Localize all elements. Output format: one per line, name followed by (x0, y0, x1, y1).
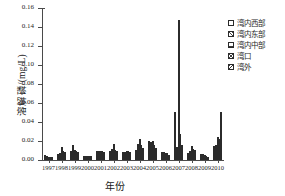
bar (142, 148, 144, 160)
legend-swatch-icon (228, 20, 234, 26)
legend-item-label: 湾内中部 (237, 39, 265, 50)
bar (194, 150, 196, 160)
legend-item-label: 湾内东部 (237, 28, 265, 39)
y-axis-tick-label: 0.00 (22, 155, 34, 163)
x-axis-tick (114, 160, 115, 163)
bar (168, 155, 170, 160)
x-axis-tick (205, 160, 206, 163)
x-axis-tick (166, 160, 167, 163)
x-axis-tick (153, 160, 154, 163)
y-axis-tick-label: 0.06 (22, 98, 34, 106)
bar (103, 152, 105, 160)
x-axis-tick-label: 2010 (203, 164, 233, 171)
bar (207, 157, 209, 160)
x-axis-line (42, 160, 224, 161)
bar (129, 152, 131, 160)
y-axis-tick-label: 0.02 (22, 136, 34, 144)
x-axis-tick (140, 160, 141, 163)
legend-item[interactable]: 湾内东部 (228, 28, 285, 39)
x-axis-title: 年份 (0, 178, 230, 193)
bar (155, 148, 157, 160)
legend-item[interactable]: 湾内中部 (228, 39, 285, 50)
bar (77, 152, 79, 160)
x-axis-tick (192, 160, 193, 163)
legend-item-label: 湾内西部 (237, 17, 265, 28)
chart-legend: 湾内西部湾内东部湾内中部湾口湾外 (228, 17, 285, 72)
y-axis-tick-label: 0.08 (22, 79, 34, 87)
bar (181, 145, 183, 160)
x-axis-tick (62, 160, 63, 163)
x-axis-tick (49, 160, 50, 163)
x-axis-tick (75, 160, 76, 163)
y-axis-tick-label: 0.10 (22, 60, 34, 68)
x-axis-tick (127, 160, 128, 163)
legend-swatch-icon (228, 64, 234, 70)
bar (90, 156, 92, 160)
y-axis-tick-label: 0.12 (22, 41, 34, 49)
y-axis-tick-label: 0.14 (22, 22, 34, 30)
legend-item[interactable]: 湾口 (228, 50, 285, 61)
legend-item[interactable]: 湾外 (228, 61, 285, 72)
x-axis-tick (88, 160, 89, 163)
bar (51, 157, 53, 160)
legend-item[interactable]: 湾内西部 (228, 17, 285, 28)
bar (64, 152, 66, 160)
dissolved-phosphorus-bar-chart: 溶解磷/(mg/L) 0.000.020.040.060.080.100.120… (0, 0, 285, 196)
bar-series-container (42, 8, 224, 160)
legend-swatch-icon (228, 53, 234, 59)
y-axis-tick-label: 0.16 (22, 3, 34, 11)
x-axis-tick (179, 160, 180, 163)
legend-item-label: 湾口 (237, 50, 251, 61)
x-axis-tick (218, 160, 219, 163)
y-axis-tick: 0.00 (38, 160, 42, 161)
plot-area: 0.000.020.040.060.080.100.120.140.16 199… (42, 8, 224, 160)
y-axis-tick-label: 0.04 (22, 117, 34, 125)
bar (220, 112, 222, 160)
legend-swatch-icon (228, 42, 234, 48)
x-axis-tick (101, 160, 102, 163)
legend-item-label: 湾外 (237, 61, 251, 72)
legend-swatch-icon (228, 31, 234, 37)
bar (116, 151, 118, 160)
